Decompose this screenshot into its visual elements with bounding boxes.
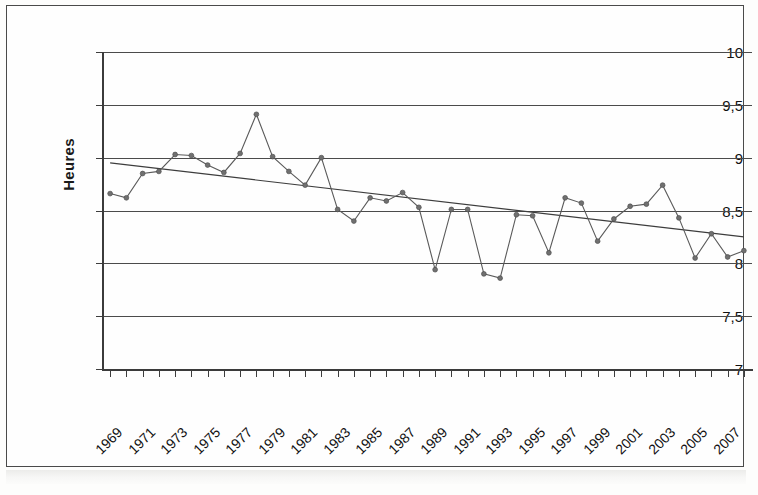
x-tick-label: 1991 bbox=[442, 424, 483, 465]
x-tick-label: 1985 bbox=[344, 424, 385, 465]
y-axis-title: Heures bbox=[60, 100, 77, 230]
data-point-marker bbox=[563, 195, 568, 200]
data-point-marker bbox=[465, 207, 470, 212]
data-point-marker bbox=[335, 207, 340, 212]
x-tick-label: 1993 bbox=[474, 424, 515, 465]
heures-markers bbox=[108, 112, 747, 281]
data-point-marker bbox=[628, 204, 633, 209]
data-point-marker bbox=[660, 183, 665, 188]
data-point-marker bbox=[676, 216, 681, 221]
data-point-marker bbox=[416, 205, 421, 210]
data-point-marker bbox=[254, 112, 259, 117]
data-point-marker bbox=[108, 191, 113, 196]
data-point-marker bbox=[270, 154, 275, 159]
data-point-marker bbox=[741, 248, 746, 253]
data-point-marker bbox=[644, 202, 649, 207]
data-point-marker bbox=[725, 255, 730, 260]
data-point-marker bbox=[514, 212, 519, 217]
data-point-marker bbox=[286, 169, 291, 174]
data-point-marker bbox=[173, 152, 178, 157]
x-tick-label: 2005 bbox=[669, 424, 710, 465]
data-point-marker bbox=[124, 195, 129, 200]
data-point-marker bbox=[319, 155, 324, 160]
data-point-marker bbox=[595, 239, 600, 244]
chart-figure: Heures 77,588,599,510 196919711973197519… bbox=[0, 0, 758, 495]
x-tick-label: 1971 bbox=[117, 424, 158, 465]
plot-area: 1969197119731975197719791981198319851987… bbox=[102, 52, 752, 369]
data-point-marker bbox=[693, 256, 698, 261]
data-series-svg bbox=[102, 52, 754, 372]
data-point-marker bbox=[205, 163, 210, 168]
x-tick-label: 1977 bbox=[214, 424, 255, 465]
data-point-marker bbox=[140, 171, 145, 176]
data-point-marker bbox=[384, 199, 389, 204]
x-tick-label: 1987 bbox=[377, 424, 418, 465]
x-tick-label: 1973 bbox=[149, 424, 190, 465]
data-point-marker bbox=[221, 170, 226, 175]
data-point-marker bbox=[709, 231, 714, 236]
x-tick-label: 1981 bbox=[279, 424, 320, 465]
data-point-marker bbox=[238, 151, 243, 156]
trend-line-path bbox=[110, 163, 744, 237]
heures-line-path bbox=[110, 114, 744, 278]
chart-frame: Heures 77,588,599,510 196919711973197519… bbox=[6, 5, 744, 467]
x-tick-label: 1983 bbox=[312, 424, 353, 465]
data-point-marker bbox=[498, 276, 503, 281]
data-point-marker bbox=[303, 183, 308, 188]
data-point-marker bbox=[481, 272, 486, 277]
data-point-marker bbox=[546, 250, 551, 255]
x-tick-label: 2001 bbox=[604, 424, 645, 465]
x-tick-label: 1995 bbox=[507, 424, 548, 465]
data-point-marker bbox=[351, 219, 356, 224]
data-point-marker bbox=[368, 195, 373, 200]
data-point-marker bbox=[611, 217, 616, 222]
x-tick-label: 1999 bbox=[572, 424, 613, 465]
data-point-marker bbox=[579, 201, 584, 206]
x-tick-label: 1975 bbox=[182, 424, 223, 465]
page-shadow bbox=[6, 470, 746, 484]
x-tick-label: 1997 bbox=[539, 424, 580, 465]
data-point-marker bbox=[433, 267, 438, 272]
data-point-marker bbox=[156, 169, 161, 174]
x-tick-label: 2003 bbox=[637, 424, 678, 465]
x-tick-label: 1979 bbox=[247, 424, 288, 465]
data-point-marker bbox=[530, 213, 535, 218]
data-point-marker bbox=[400, 190, 405, 195]
data-point-marker bbox=[449, 207, 454, 212]
data-point-marker bbox=[189, 153, 194, 158]
x-tick-label: 1989 bbox=[409, 424, 450, 465]
x-tick-label: 2007 bbox=[702, 424, 743, 465]
x-tick-label: 1969 bbox=[84, 424, 125, 465]
